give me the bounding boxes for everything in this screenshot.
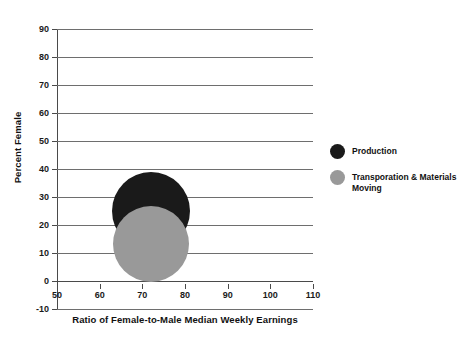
gridline-50 <box>57 141 313 142</box>
y-tick-mark-10 <box>52 253 57 254</box>
y-tick-label-50: 50 <box>39 137 49 146</box>
y-tick-mark-60 <box>52 113 57 114</box>
y-tick-label-80: 80 <box>39 53 49 62</box>
gridline-40 <box>57 169 313 170</box>
legend-label-transportation-materials-moving: Transporation & Materials Moving <box>352 170 472 194</box>
gridline-80 <box>57 57 313 58</box>
bubble-chart-figure: 90 80 70 60 50 40 30 20 <box>0 0 476 342</box>
y-tick-mark-0 <box>52 281 57 282</box>
y-tick-label-10: 10 <box>39 249 49 258</box>
x-tick-label-80: 80 <box>180 291 190 300</box>
x-tick-label-60: 60 <box>95 291 105 300</box>
x-tick-label-100: 100 <box>263 291 278 300</box>
y-tick-label-neg10: -10 <box>36 305 49 314</box>
x-tick-mark-70 <box>142 284 143 289</box>
legend-item-transportation-materials-moving[interactable]: Transporation & Materials Moving <box>330 170 472 194</box>
x-tick-mark-100 <box>270 284 271 289</box>
legend-label-production: Production <box>352 144 397 157</box>
gridline-70 <box>57 85 313 86</box>
bubble-transportation-materials-moving[interactable] <box>113 206 189 282</box>
x-tick-label-50: 50 <box>52 291 62 300</box>
x-tick-mark-50 <box>57 284 58 289</box>
y-tick-mark-40 <box>52 169 57 170</box>
x-tick-mark-80 <box>185 284 186 289</box>
x-axis-title: Ratio of Female-to-Male Median Weekly Ea… <box>57 314 313 325</box>
x-tick-label-90: 90 <box>223 291 233 300</box>
legend: Production Transporation & Materials Mov… <box>330 144 472 205</box>
x-tick-mark-90 <box>228 284 229 289</box>
y-tick-mark-30 <box>52 197 57 198</box>
y-tick-label-60: 60 <box>39 109 49 118</box>
baseline-neg10 <box>57 309 313 310</box>
y-tick-label-30: 30 <box>39 193 49 202</box>
y-tick-mark-80 <box>52 57 57 58</box>
plot-area: 90 80 70 60 50 40 30 20 <box>57 29 313 281</box>
x-tick-label-110: 110 <box>306 291 321 300</box>
gridline-90 <box>57 29 313 30</box>
y-axis-title: Percent Female <box>12 93 23 203</box>
x-axis-tick-row: 50 60 70 80 90 100 110 <box>57 288 313 302</box>
y-tick-label-20: 20 <box>39 221 49 230</box>
y-tick-label-70: 70 <box>39 81 49 90</box>
y-tick-label-40: 40 <box>39 165 49 174</box>
y-tick-label-90: 90 <box>39 25 49 34</box>
y-tick-mark-70 <box>52 85 57 86</box>
x-tick-label-70: 70 <box>137 291 147 300</box>
x-tick-mark-60 <box>100 284 101 289</box>
legend-swatch-circle-icon <box>330 144 345 159</box>
legend-swatch-circle-icon <box>330 170 345 185</box>
gridline-0 <box>57 281 313 282</box>
legend-item-production[interactable]: Production <box>330 144 472 159</box>
y-tick-mark-20 <box>52 225 57 226</box>
y-tick-label-0: 0 <box>44 277 49 286</box>
y-tick-mark-90 <box>52 29 57 30</box>
x-tick-mark-110 <box>313 284 314 289</box>
y-tick-mark-50 <box>52 141 57 142</box>
gridline-60 <box>57 113 313 114</box>
